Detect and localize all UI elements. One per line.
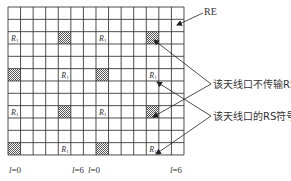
symbol-index-label: l=6 — [170, 165, 183, 175]
no-rs-cell — [8, 143, 21, 155]
no-rs-cell — [58, 32, 71, 44]
no-rs-cell — [8, 69, 21, 81]
symbol-index-labels: l=0l=6l=0l=6 — [9, 165, 183, 175]
rs-symbol-subscript: 1 — [66, 75, 69, 80]
no-rs-cell — [96, 69, 109, 81]
rs-pointer-line-2 — [156, 116, 211, 154]
rs-symbol-subscript: 1 — [16, 38, 19, 43]
no-rs-label: 该天线口不传输RS — [213, 78, 291, 90]
resource-grid-diagram: R1R1R1R1R1R1R1R1 RE 该天线口不传输RS 该天线口的RS符号 … — [0, 0, 291, 181]
rs-symbol-subscript: 1 — [154, 75, 157, 80]
symbol-index-label: l=0 — [88, 165, 101, 175]
no-rs-pointer-line-1 — [154, 40, 211, 84]
re-label: RE — [204, 6, 217, 17]
annotation-lines — [153, 13, 211, 154]
re-grid — [8, 7, 184, 155]
rs-symbol-subscript: 1 — [66, 149, 69, 154]
rs-symbol-subscript: 1 — [104, 38, 107, 43]
no-rs-cell — [58, 106, 71, 118]
rs-symbol-subscript: 1 — [104, 112, 107, 117]
symbol-index-label: l=6 — [72, 165, 85, 175]
no-rs-cell — [96, 143, 109, 155]
rs-symbol-label: 该天线口的RS符号 — [213, 110, 291, 122]
no-rs-cell — [146, 106, 159, 118]
no-rs-pointer-line-2 — [153, 84, 211, 117]
rs-symbol-subscript: 1 — [16, 112, 19, 117]
symbol-index-label: l=0 — [9, 165, 22, 175]
